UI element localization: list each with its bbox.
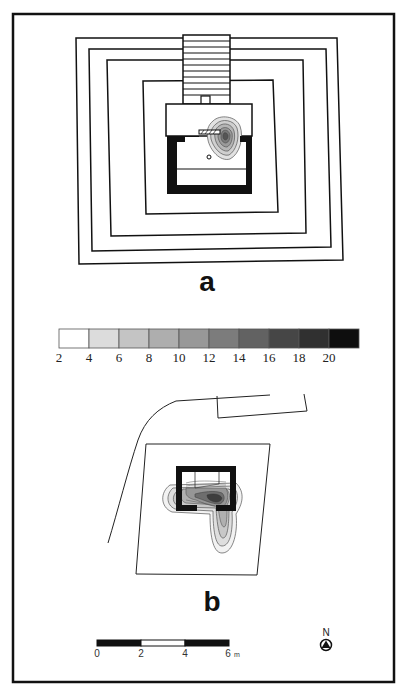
legend-tick: 20: [323, 350, 336, 365]
north-label: N: [322, 627, 329, 638]
panel-label-a: a: [199, 266, 215, 297]
color-scale-legend: 2 4 6 8 10 12 14 16 18 20: [56, 329, 359, 365]
legend-tick: 10: [173, 350, 186, 365]
legend-bin-10-12: [179, 329, 209, 348]
scale-tick: 0: [94, 648, 100, 659]
stairway: [183, 35, 230, 104]
legend-bin-14-16: [239, 329, 269, 348]
panel-label-b: b: [203, 586, 220, 617]
contour-plot-a: [207, 117, 241, 160]
legend-tick: 18: [293, 350, 306, 365]
scale-bar: 0 2 4 6 m: [94, 640, 240, 659]
scale-tick: 6: [225, 648, 231, 659]
north-arrow-icon: N: [321, 627, 332, 651]
legend-tick: 14: [233, 350, 247, 365]
legend-tick: 4: [86, 350, 93, 365]
legend-bin-16-18: [269, 329, 299, 348]
legend-tick: 16: [263, 350, 277, 365]
legend-tick: 6: [116, 350, 123, 365]
legend-bin-4-6: [89, 329, 119, 348]
small-circle-marker: [207, 155, 211, 159]
legend-tick: 8: [146, 350, 153, 365]
scale-tick: 2: [138, 648, 144, 659]
figure: a 2 4 6 8 10 12 14 16 18 20: [0, 0, 407, 691]
scale-tick: 4: [182, 648, 188, 659]
legend-bin-8-10: [149, 329, 179, 348]
panel-b-plan: b: [108, 394, 307, 617]
legend-bin-2-4: [59, 329, 89, 348]
legend-bin-6-8: [119, 329, 149, 348]
hatched-slab: [199, 130, 220, 134]
legend-bin-12-14: [209, 329, 239, 348]
panel-a-plan: a: [76, 35, 343, 297]
legend-tick: 2: [56, 350, 63, 365]
legend-bin-20-22: [329, 329, 359, 348]
legend-tick: 12: [203, 350, 216, 365]
legend-bin-18-20: [299, 329, 329, 348]
stair-block: [201, 96, 210, 104]
scale-unit: m: [234, 651, 240, 658]
